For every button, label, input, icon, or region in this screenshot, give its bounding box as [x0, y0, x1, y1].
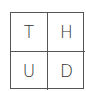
- grid-cell-d: D: [48, 52, 85, 90]
- letter-grid: T H U D: [10, 12, 84, 89]
- grid-cell-h: H: [48, 13, 85, 52]
- grid-cell-u: U: [11, 52, 48, 90]
- grid-cell-t: T: [11, 13, 48, 52]
